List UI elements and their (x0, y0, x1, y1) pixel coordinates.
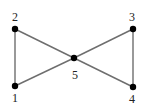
node-5 (71, 55, 77, 61)
bowtie-graph-diagram: 12345 (0, 0, 141, 108)
node-4 (130, 84, 136, 90)
node-2 (12, 26, 18, 32)
node-label-2: 2 (12, 10, 18, 24)
graph-svg: 12345 (0, 0, 141, 108)
node-label-1: 1 (12, 91, 18, 105)
node-label-5: 5 (72, 68, 78, 82)
node-label-3: 3 (129, 10, 135, 24)
edge-4-5 (74, 58, 133, 87)
edge-1-5 (15, 58, 74, 86)
edge-3-5 (74, 29, 133, 58)
node-1 (12, 83, 18, 89)
node-3 (130, 26, 136, 32)
edge-2-5 (15, 29, 74, 58)
node-label-4: 4 (129, 92, 135, 106)
